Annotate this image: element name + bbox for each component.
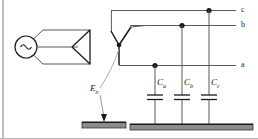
- capacitor-cc: [201, 11, 217, 125]
- delta-upper-side: [72, 30, 90, 47]
- source-leads: [34, 30, 79, 64]
- capacitor-label-cb: Cb: [184, 78, 193, 89]
- wye-arm-b: [119, 27, 131, 45]
- capacitor-label-cb-sub: b: [190, 83, 193, 89]
- source-lead-bottom: [34, 55, 44, 64]
- neutral-leader-line: [100, 49, 119, 88]
- circuit-diagram-canvas: [0, 0, 258, 139]
- capacitor-label-ca: Ca: [157, 78, 166, 89]
- neutral-ground-arrowhead: [101, 114, 107, 122]
- wye-arm-c: [111, 31, 119, 45]
- phase-label-b: b: [241, 21, 245, 29]
- source-lead-top: [34, 30, 44, 39]
- neutral-label-sub: n: [96, 89, 99, 95]
- capacitor-cb: [174, 26, 190, 125]
- capacitor-label-ca-sub: a: [163, 83, 166, 89]
- capacitor-ca: [147, 66, 163, 125]
- phase-label-c: c: [241, 6, 245, 14]
- delta-lower-side: [72, 47, 90, 64]
- neutral-ground-lead: [100, 95, 104, 117]
- bus-lines: [111, 11, 236, 66]
- capacitor-ground-bar: [130, 124, 253, 130]
- ac-source: [15, 36, 37, 58]
- neutral-point-label: En: [90, 84, 99, 95]
- phase-label-a: a: [241, 61, 245, 69]
- circuit-diagram-figure: c b a Ca Cb Cc En: [0, 0, 258, 139]
- capacitor-label-cc-sub: c: [217, 83, 220, 89]
- capacitor-label-cc: Cc: [211, 78, 220, 89]
